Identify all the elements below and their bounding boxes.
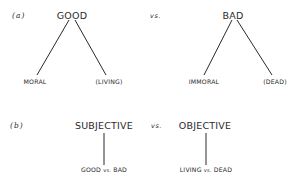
edge-bad-dead (237, 20, 272, 75)
connector-lines (0, 0, 294, 185)
node-moral: MORAL (24, 79, 47, 85)
edge-bad-immoral (204, 20, 232, 75)
node-bad: BAD (223, 11, 244, 21)
node-living: (LIVING) (95, 79, 122, 85)
node-living-vs-dead: LIVING vs. DEAD (180, 167, 233, 173)
bad-text: BAD (113, 166, 127, 173)
living-text: LIVING (180, 166, 202, 173)
node-immoral: IMMORAL (189, 79, 220, 85)
part-b-vs: vs. (151, 123, 162, 130)
edge-good-moral (37, 20, 69, 75)
vs-text: vs. (204, 167, 212, 173)
vs-text: vs. (103, 167, 111, 173)
part-a-label: (a) (12, 12, 25, 20)
part-a-vs: vs. (150, 13, 161, 20)
good-text: GOOD (81, 166, 101, 173)
node-dead: (DEAD) (263, 79, 287, 85)
dead-text: DEAD (214, 166, 232, 173)
diagram-canvas: (a) GOOD vs. BAD MORAL (LIVING) IMMORAL … (0, 0, 294, 185)
edge-good-living (75, 20, 106, 75)
node-good-vs-bad: GOOD vs. BAD (81, 167, 127, 173)
node-objective: OBJECTIVE (179, 121, 231, 131)
part-b-label: (b) (10, 122, 24, 130)
node-good: GOOD (57, 11, 87, 21)
node-subjective: SUBJECTIVE (75, 121, 133, 131)
